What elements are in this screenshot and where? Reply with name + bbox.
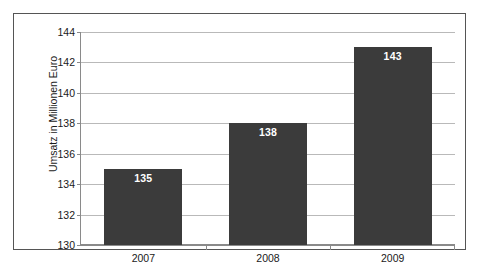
bar-value-label: 135: [104, 172, 182, 184]
y-axis-tick-label: 142: [57, 56, 75, 68]
y-tick-mark: [77, 62, 81, 63]
x-tick-mark: [206, 245, 207, 250]
y-axis-tick-label: 130: [57, 239, 75, 251]
y-axis-tick-label: 138: [57, 117, 75, 129]
y-tick-mark: [77, 215, 81, 216]
y-axis-tick-label: 132: [57, 209, 75, 221]
x-tick-mark: [330, 245, 331, 250]
y-axis-tick-label: 144: [57, 26, 75, 38]
bar-value-label: 138: [229, 126, 307, 138]
bar-value-label: 143: [354, 50, 432, 62]
y-axis-tick-label: 140: [57, 87, 75, 99]
bar-2008[interactable]: 138: [229, 123, 307, 245]
bar-2007[interactable]: 135: [104, 169, 182, 245]
y-tick-mark: [77, 154, 81, 155]
y-tick-mark: [77, 184, 81, 185]
y-tick-mark: [77, 32, 81, 33]
plot-area: 1301321341361381401421441352007138200814…: [80, 32, 455, 246]
x-axis-category-label: 2009: [330, 252, 455, 262]
x-tick-mark: [454, 245, 455, 250]
y-tick-mark: [77, 245, 81, 246]
x-axis-category-label: 2007: [81, 252, 206, 262]
x-axis-category-label: 2008: [206, 252, 331, 262]
chart-frame: Umsatz in Millionen Euro 130132134136138…: [13, 13, 466, 250]
bar-2009[interactable]: 143: [354, 47, 432, 245]
y-axis-tick-label: 136: [57, 148, 75, 160]
gridline: [81, 32, 455, 33]
y-axis-tick-label: 134: [57, 178, 75, 190]
y-tick-mark: [77, 123, 81, 124]
y-tick-mark: [77, 93, 81, 94]
